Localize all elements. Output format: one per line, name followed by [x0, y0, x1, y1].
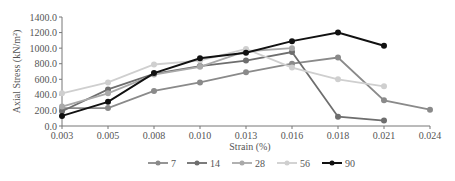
x-tick-label: 0.018	[327, 130, 350, 141]
data-point	[335, 30, 341, 36]
line-chart: Axial Stress (kN/m²) 0.0200.0400.0600.08…	[0, 0, 455, 181]
data-point	[243, 69, 249, 75]
legend-item-14: 14	[187, 158, 220, 169]
x-tick-label: 0.005	[97, 130, 120, 141]
y-axis-title-text: Axial Stress (kN/m²)	[11, 30, 23, 114]
data-point	[197, 64, 203, 70]
y-tick-label: 1000.0	[30, 43, 58, 54]
legend-item-7: 7	[148, 158, 176, 169]
x-axis-title: Strain (%)	[229, 141, 270, 153]
data-point	[105, 79, 111, 85]
data-point	[105, 90, 111, 96]
data-point	[335, 54, 341, 60]
data-point	[381, 43, 387, 49]
x-tick-label: 0.021	[373, 130, 396, 141]
legend-item-90: 90	[322, 158, 355, 169]
data-point	[151, 61, 157, 67]
data-point	[59, 90, 65, 96]
data-point	[289, 38, 295, 44]
legend-label: 7	[171, 158, 176, 169]
data-point	[335, 114, 341, 120]
y-tick-label: 400.0	[35, 89, 58, 100]
data-point	[105, 99, 111, 105]
data-point	[381, 83, 387, 89]
data-point	[335, 76, 341, 82]
y-tick-label: 800.0	[35, 58, 58, 69]
legend-item-56: 56	[277, 158, 310, 169]
series-lines	[59, 30, 433, 124]
x-tick-label: 0.003	[51, 130, 74, 141]
legend-label: 28	[255, 158, 265, 169]
data-point	[151, 88, 157, 94]
x-tick-label: 0.013	[235, 130, 258, 141]
data-point	[151, 70, 157, 76]
data-point	[289, 45, 295, 51]
data-point	[105, 105, 111, 111]
data-point	[197, 79, 203, 85]
x-tick-label: 0.016	[281, 130, 304, 141]
legend-label: 90	[345, 158, 355, 169]
y-tick-label: 1400.0	[30, 12, 58, 23]
y-tick-label: 200.0	[35, 105, 58, 116]
y-axis-title: Axial Stress (kN/m²)	[11, 30, 23, 114]
legend-item-28: 28	[232, 158, 265, 169]
data-point	[381, 97, 387, 103]
data-point	[243, 50, 249, 56]
axes: 0.0200.0400.0600.0800.01000.01200.01400.…	[30, 12, 442, 142]
data-point	[381, 118, 387, 124]
y-tick-label: 600.0	[35, 74, 58, 85]
data-point	[59, 104, 65, 110]
data-point	[427, 107, 433, 113]
x-tick-label: 0.010	[189, 130, 212, 141]
legend: 714285690	[148, 158, 355, 169]
legend-label: 14	[210, 158, 220, 169]
data-point	[59, 113, 65, 119]
legend-label: 56	[300, 158, 310, 169]
x-tick-label: 0.024	[419, 130, 442, 141]
data-point	[243, 58, 249, 64]
data-point	[289, 65, 295, 71]
y-tick-label: 1200.0	[30, 27, 58, 38]
data-point	[197, 55, 203, 61]
x-tick-label: 0.008	[143, 130, 166, 141]
